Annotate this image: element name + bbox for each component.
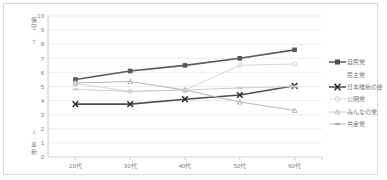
legend-key-triangle-icon <box>329 107 346 117</box>
y-tick-label: 2 <box>41 126 45 132</box>
legend-key-blank-icon <box>329 70 346 80</box>
y-tick-label: 0 <box>41 154 45 160</box>
line-chart-plot: 01234567891020代30代40代50代60代保守↑↓革新 <box>4 4 379 176</box>
legend-label: 共産党 <box>346 121 365 127</box>
legend-label: 日本維新の会 <box>346 84 383 90</box>
legend-label: みんなの党 <box>346 109 377 115</box>
x-category-label: 20代 <box>69 162 82 170</box>
axis-pole-top-label: 守 <box>31 23 37 31</box>
y-tick-label: 9 <box>41 27 45 33</box>
series-marker <box>292 48 297 53</box>
y-tick-label: 5 <box>41 84 45 90</box>
legend-item-komei[interactable]: 公明党 <box>329 93 387 105</box>
legend-item-kyosan[interactable]: 共産党 <box>329 118 387 130</box>
legend-key-square-icon <box>329 57 346 67</box>
legend-key-dash-icon <box>329 119 346 129</box>
legend-item-minshu[interactable]: 民主党 <box>329 68 387 80</box>
x-category-label: 40代 <box>179 162 192 170</box>
legend-item-minna[interactable]: みんなの党 <box>329 106 387 118</box>
x-category-label: 50代 <box>233 162 246 170</box>
legend-item-jimin[interactable]: 自民党 <box>329 56 387 68</box>
axis-pole-bottom-label: 新 <box>31 148 37 156</box>
y-tick-label: 1 <box>41 140 45 146</box>
x-category-label: 60代 <box>288 162 301 170</box>
axis-arrow-down-icon: ↓ <box>31 128 36 135</box>
series-line <box>75 82 294 111</box>
y-tick-label: 4 <box>41 98 45 104</box>
axis-arrow-up-icon: ↑ <box>31 38 36 45</box>
legend-item-ishin[interactable]: 日本維新の会 <box>329 81 387 93</box>
legend-label: 公明党 <box>346 96 365 102</box>
series-marker <box>183 63 188 68</box>
legend-label: 自民党 <box>346 59 365 65</box>
x-category-label: 30代 <box>124 162 137 170</box>
chart-legend: 自民党 民主党 日本維新の会 <box>329 56 387 130</box>
y-tick-label: 8 <box>41 41 45 47</box>
chart-container: 01234567891020代30代40代50代60代保守↑↓革新 自民党 民主… <box>3 3 378 175</box>
y-tick-label: 7 <box>41 56 45 62</box>
legend-key-circle-icon <box>329 94 346 104</box>
y-tick-label: 6 <box>41 70 45 76</box>
y-tick-label: 3 <box>41 112 45 118</box>
series-marker <box>128 69 133 74</box>
series-marker <box>238 56 243 61</box>
y-tick-label: 10 <box>37 13 44 19</box>
legend-label: 民主党 <box>346 72 365 78</box>
legend-key-x-icon <box>329 82 346 92</box>
